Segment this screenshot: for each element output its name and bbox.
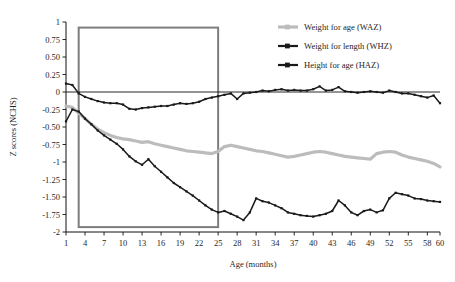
series-marker <box>274 89 276 91</box>
series-marker <box>122 148 124 150</box>
series-marker <box>109 102 111 104</box>
series-marker <box>318 214 320 216</box>
chart-canvas: 10.750.500.250-0.25-0.50-0.75-1-1.25-1.5… <box>0 0 455 282</box>
x-tick-label: 19 <box>176 238 185 248</box>
x-tick-label: 1 <box>64 238 68 248</box>
highlight-box-rect <box>79 28 218 228</box>
series-marker <box>331 89 333 91</box>
series-marker <box>376 91 378 93</box>
series-marker <box>211 97 213 99</box>
growth-zscore-chart: 10.750.500.250-0.25-0.50-0.75-1-1.25-1.5… <box>0 0 455 282</box>
series-marker <box>369 209 371 211</box>
series-marker <box>84 96 86 98</box>
x-tick-label: 28 <box>233 238 242 248</box>
series-marker <box>426 199 428 201</box>
series-marker <box>204 98 206 100</box>
series-marker <box>90 123 92 125</box>
legend-marker-2 <box>285 44 290 49</box>
series-marker <box>160 171 162 173</box>
series-marker <box>185 190 187 192</box>
x-tick-label: 7 <box>102 238 106 248</box>
series-marker <box>242 219 244 221</box>
y-tick-label: 0.50 <box>45 52 60 62</box>
series-marker <box>122 104 124 106</box>
y-tick-label: -1.75 <box>42 210 60 220</box>
series-marker <box>280 88 282 90</box>
series-marker <box>363 210 365 212</box>
x-axis: 147101316192225283134374043464952555860 <box>64 232 444 248</box>
series-marker <box>97 100 99 102</box>
series-marker <box>382 209 384 211</box>
series-marker <box>103 134 105 136</box>
series-marker <box>433 94 435 96</box>
series-marker <box>306 90 308 92</box>
series-marker <box>109 139 111 141</box>
y-tick-label: 1 <box>56 17 60 27</box>
series-marker <box>274 204 276 206</box>
series-marker <box>344 90 346 92</box>
series-marker <box>268 202 270 204</box>
y-tick-label: 0 <box>56 87 60 97</box>
series-marker <box>198 199 200 201</box>
series-marker <box>141 164 143 166</box>
series-marker <box>223 210 225 212</box>
series-marker <box>369 90 371 92</box>
series-marker <box>312 88 314 90</box>
x-tick-label: 31 <box>252 238 261 248</box>
x-tick-label: 37 <box>290 238 299 248</box>
series-marker <box>395 192 397 194</box>
series-marker <box>211 209 213 211</box>
x-tick-label: 25 <box>214 238 223 248</box>
series-marker <box>280 207 282 209</box>
series-marker <box>255 197 257 199</box>
series-marker <box>407 92 409 94</box>
y-axis-title: Z scores (NCHS) <box>8 97 18 156</box>
series-2 <box>65 108 441 221</box>
series-marker <box>128 155 130 157</box>
series-marker <box>192 195 194 197</box>
y-tick-label: 0.25 <box>45 70 60 80</box>
series-marker <box>84 118 86 120</box>
series-marker <box>388 197 390 199</box>
series-marker <box>154 165 156 167</box>
legend-label-3: Height for age (HAZ) <box>304 60 379 70</box>
x-tick-label: 49 <box>366 238 375 248</box>
series-marker <box>420 95 422 97</box>
series-marker <box>173 104 175 106</box>
series-marker <box>78 92 80 94</box>
y-tick-label: 0.75 <box>45 35 60 45</box>
series-marker <box>287 90 289 92</box>
series-marker <box>185 103 187 105</box>
y-tick-label: -1.25 <box>42 175 60 185</box>
x-tick-label: 13 <box>138 238 147 248</box>
series-marker <box>439 201 441 203</box>
series-marker <box>217 211 219 213</box>
x-tick-label: 34 <box>271 238 280 248</box>
legend-marker-3 <box>285 63 290 68</box>
series-marker <box>192 102 194 104</box>
series-marker <box>414 94 416 96</box>
series-marker <box>350 91 352 93</box>
x-tick-label: 46 <box>347 238 356 248</box>
x-tick-label: 10 <box>119 238 128 248</box>
series-marker <box>249 211 251 213</box>
series-marker <box>299 90 301 92</box>
series-marker <box>116 102 118 104</box>
series-marker <box>65 120 67 122</box>
series-line <box>66 110 440 221</box>
series-marker <box>414 197 416 199</box>
series-marker <box>255 91 257 93</box>
series-marker <box>141 107 143 109</box>
x-tick-label: 40 <box>309 238 318 248</box>
series-marker <box>382 92 384 94</box>
series-marker <box>198 101 200 103</box>
series-3 <box>65 83 441 111</box>
series-marker <box>433 200 435 202</box>
series-marker <box>401 92 403 94</box>
series-marker <box>223 94 225 96</box>
series-marker <box>344 204 346 206</box>
series-marker <box>407 195 409 197</box>
series-marker <box>147 158 149 160</box>
series-marker <box>261 90 263 92</box>
series-marker <box>160 105 162 107</box>
